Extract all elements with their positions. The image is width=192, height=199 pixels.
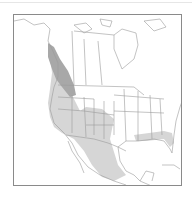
map-frame: [13, 14, 182, 186]
top-divider: [0, 2, 192, 3]
range-map: [14, 15, 182, 186]
